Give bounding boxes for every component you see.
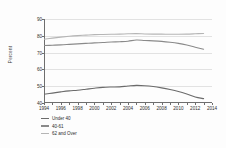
y-tick-label: 70 bbox=[37, 50, 42, 55]
legend-label: 62 and Over bbox=[52, 131, 77, 136]
x-tick-mark bbox=[69, 103, 70, 105]
legend-item[interactable]: 62 and Over bbox=[41, 131, 77, 136]
x-tick-label: 1994 bbox=[39, 106, 49, 111]
x-tick-mark bbox=[61, 103, 62, 105]
x-tick-mark bbox=[212, 103, 213, 105]
y-tick-label: 60 bbox=[37, 67, 42, 72]
y-tick-label: 50 bbox=[37, 84, 42, 89]
legend-item[interactable]: Under 40 bbox=[41, 116, 77, 121]
x-tick-label: 2006 bbox=[140, 106, 150, 111]
x-tick-label: 2012 bbox=[190, 106, 200, 111]
x-tick-mark bbox=[162, 103, 163, 105]
series-line bbox=[44, 33, 204, 39]
x-tick-mark bbox=[86, 103, 87, 105]
x-tick-mark bbox=[170, 103, 171, 105]
legend-label: Under 40 bbox=[52, 116, 71, 121]
y-tick-label: 80 bbox=[37, 33, 42, 38]
x-tick-mark bbox=[195, 103, 196, 105]
x-tick-label: 2010 bbox=[173, 106, 183, 111]
series-line bbox=[44, 85, 204, 98]
x-tick-mark bbox=[111, 103, 112, 105]
x-tick-label: 1996 bbox=[56, 106, 66, 111]
x-tick-mark bbox=[187, 103, 188, 105]
legend-line-icon bbox=[41, 118, 49, 119]
x-tick-label: 1998 bbox=[72, 106, 82, 111]
series-lines bbox=[44, 19, 212, 103]
y-tick-label: 40 bbox=[37, 101, 42, 106]
legend-item[interactable]: 40-61 bbox=[41, 124, 77, 129]
y-tick-label: 90 bbox=[37, 17, 42, 22]
x-tick-mark bbox=[103, 103, 104, 105]
x-tick-mark bbox=[145, 103, 146, 105]
x-tick-mark bbox=[52, 103, 53, 105]
x-tick-mark bbox=[136, 103, 137, 105]
chart-figure: Percent 908070605040 1994199619982000200… bbox=[0, 0, 226, 148]
plot-area: 908070605040 199419961998200020022004200… bbox=[44, 19, 212, 103]
x-tick-label: 2002 bbox=[106, 106, 116, 111]
x-tick-mark bbox=[178, 103, 179, 105]
x-tick-mark bbox=[44, 103, 45, 105]
y-axis-title: Percent bbox=[8, 33, 13, 77]
legend-label: 40-61 bbox=[52, 124, 64, 129]
x-tick-label: 2008 bbox=[156, 106, 166, 111]
legend-line-icon bbox=[41, 133, 49, 134]
x-tick-mark bbox=[120, 103, 121, 105]
legend-line-icon bbox=[41, 125, 49, 126]
x-tick-mark bbox=[94, 103, 95, 105]
x-tick-label: 2000 bbox=[89, 106, 99, 111]
x-tick-label: 2004 bbox=[123, 106, 133, 111]
chart-legend: Under 4040-6162 and Over bbox=[41, 116, 77, 136]
x-tick-mark bbox=[204, 103, 205, 105]
x-tick-label: 2014 bbox=[207, 106, 217, 111]
x-tick-mark bbox=[128, 103, 129, 105]
x-tick-mark bbox=[153, 103, 154, 105]
series-line bbox=[44, 40, 204, 49]
x-tick-mark bbox=[78, 103, 79, 105]
